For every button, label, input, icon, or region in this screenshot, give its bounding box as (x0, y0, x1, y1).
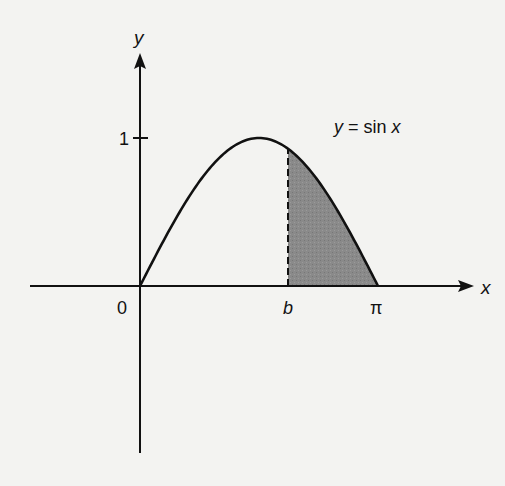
origin-label: 0 (117, 298, 127, 318)
x-axis-label: x (480, 277, 492, 298)
y-axis-label: y (132, 27, 145, 48)
b-label: b (283, 298, 293, 318)
sine-area-diagram: y x 1 0 b π y = sin x (0, 0, 505, 486)
y-tick-label: 1 (119, 129, 129, 149)
shaded-area (288, 149, 378, 286)
pi-label: π (370, 298, 382, 318)
function-label: y = sin x (332, 117, 402, 137)
